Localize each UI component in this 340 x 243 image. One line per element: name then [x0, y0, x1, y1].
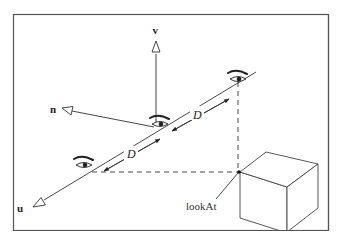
distance-arrow-lower: D [104, 139, 160, 171]
distance-label-upper: D [192, 108, 202, 122]
eye-icon [150, 116, 169, 127]
u-axis: u [17, 72, 256, 214]
lookat-leader-line [216, 173, 238, 199]
v-arrowhead-icon [152, 41, 160, 52]
eye-icon [74, 157, 93, 168]
u-arrowhead-icon [33, 198, 46, 208]
distance-arrow-upper: D [172, 99, 229, 131]
camera-dolly-diagram: v n u D D lookAt [0, 0, 340, 243]
n-axis-label: n [50, 103, 56, 115]
eye-icon [228, 71, 247, 82]
cube-object [240, 152, 318, 233]
distance-label-lower: D [126, 147, 136, 161]
n-arrowhead-icon [62, 107, 73, 116]
lookat-label: lookAt [186, 200, 217, 212]
u-axis-label: u [17, 202, 23, 214]
v-axis: v [152, 24, 160, 124]
v-axis-label: v [153, 24, 159, 36]
n-axis: n [50, 103, 154, 127]
